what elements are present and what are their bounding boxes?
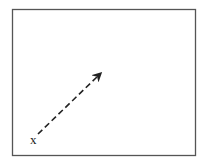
diagram-canvas: x: [0, 0, 205, 165]
frame-border: [13, 10, 196, 156]
start-point-label: x: [30, 132, 37, 147]
dashed-arrow: [38, 74, 100, 134]
